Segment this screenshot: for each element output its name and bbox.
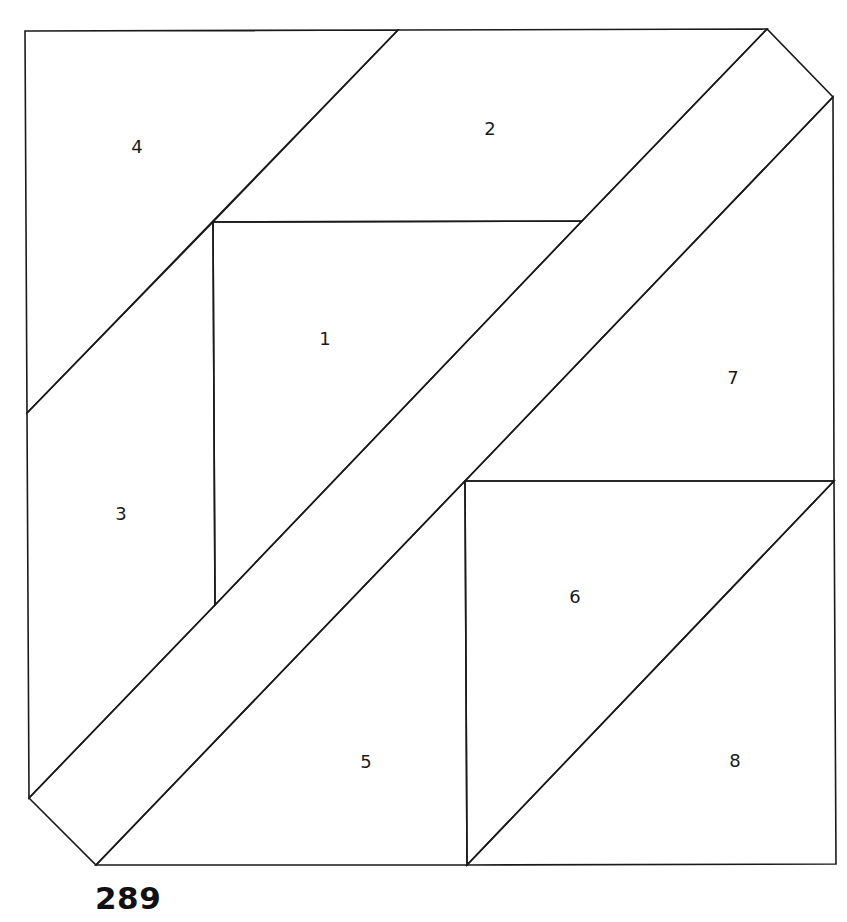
diagonal-strip: [29, 29, 833, 865]
piece-8: [467, 481, 836, 865]
pattern-diagram: 12345678: [0, 0, 847, 922]
piece-label-6: 6: [569, 586, 580, 607]
piece-label-8: 8: [729, 750, 740, 771]
piece-label-1: 1: [319, 328, 330, 349]
piece-label-2: 2: [484, 118, 495, 139]
piece-label-3: 3: [115, 503, 126, 524]
piece-labels: 12345678: [115, 118, 740, 772]
pattern-number: 289: [95, 880, 161, 916]
piece-label-7: 7: [727, 367, 738, 388]
piece-label-4: 4: [131, 136, 142, 157]
piece-label-5: 5: [360, 751, 371, 772]
pieces: [25, 29, 836, 865]
strips: [29, 29, 833, 865]
